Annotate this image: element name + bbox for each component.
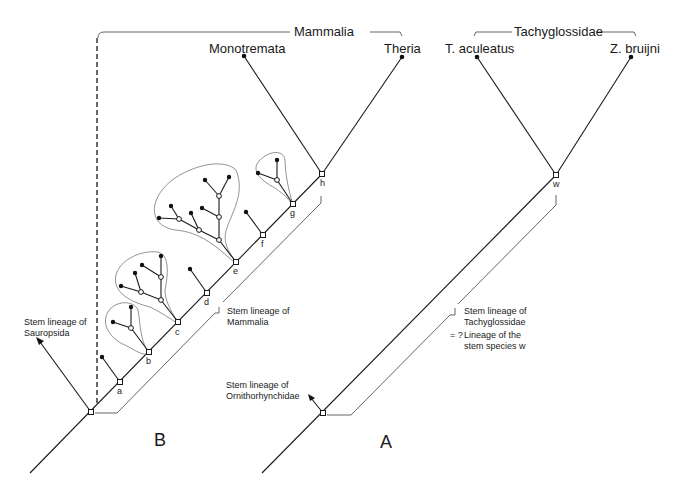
node-label-c: c	[175, 327, 180, 337]
node-label-g: g	[290, 208, 295, 218]
ornithorhynchidae-arrow-icon	[308, 394, 315, 401]
node-label-w: w	[553, 179, 560, 189]
stem-tachyglossidae-label: Stem lineage of Tachyglossidae	[464, 306, 527, 328]
panel-b-label: B	[154, 430, 166, 451]
theria-branch	[322, 57, 402, 174]
monotremata-branch	[244, 56, 322, 174]
stem-tachyglossidae-bracket	[327, 195, 556, 415]
aculeatus-branch	[477, 57, 556, 175]
cladogram-canvas	[0, 0, 676, 494]
panel-a-label: A	[380, 432, 392, 453]
node-label-f: f	[261, 239, 264, 249]
tachyglossidae-label: Tachyglossidae	[514, 24, 603, 39]
mammalia-label: Mammalia	[294, 24, 354, 39]
theria-label: Theria	[384, 41, 421, 56]
stem-sauropsida-label: Stem lineage of Sauropsida	[24, 317, 87, 339]
t-aculeatus-label: T. aculeatus	[445, 41, 514, 56]
node-label-a: a	[117, 386, 122, 396]
clade-hull-c	[115, 252, 178, 324]
stem-mammalia-label: Stem lineage of Mammalia	[227, 306, 290, 328]
node-label-e: e	[233, 266, 238, 276]
stem-ornithorhynchidae-label: Stem lineage of Ornithorhynchidae	[226, 380, 300, 402]
equivalence-sign: = ?	[450, 330, 463, 341]
node-label-h: h	[320, 178, 325, 188]
bruijni-branch	[556, 57, 631, 175]
node-label-d: d	[204, 297, 209, 307]
clade-hull-b	[105, 303, 150, 355]
monotremata-label: Monotremata	[209, 41, 286, 56]
node-label-b: b	[146, 356, 151, 366]
z-bruijni-label: Z. bruijni	[610, 41, 660, 56]
mammalia-bracket	[98, 32, 402, 38]
sauropsida-branch	[40, 342, 91, 412]
stem-species-note: Lineage of the stem species w	[464, 330, 526, 352]
